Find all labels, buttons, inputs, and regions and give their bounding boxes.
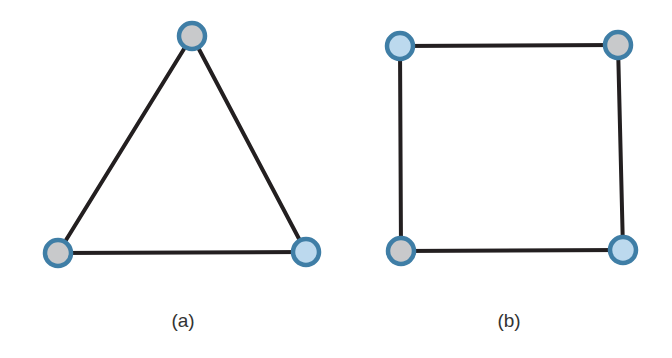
edge-a-top-to-bottom-left	[58, 36, 192, 253]
node-b-bottom-right	[610, 237, 636, 263]
graph-diagram	[0, 0, 672, 358]
node-a-top	[179, 23, 205, 49]
caption-a: (a)	[171, 310, 194, 332]
node-b-top-right	[605, 32, 631, 58]
edge-a-bottom-left-to-bottom-right	[58, 252, 306, 253]
caption-b: (b)	[497, 310, 520, 332]
nodes-layer	[45, 23, 636, 266]
edge-b-top-right-to-bottom-right	[618, 45, 623, 250]
node-a-bottom-left	[45, 240, 71, 266]
node-b-bottom-left	[388, 238, 414, 264]
edges-layer	[58, 36, 623, 253]
edge-a-top-to-bottom-right	[192, 36, 306, 252]
edge-b-top-left-to-top-right	[400, 45, 618, 46]
edge-b-bottom-left-to-top-left	[400, 46, 401, 251]
node-a-bottom-right	[293, 239, 319, 265]
node-b-top-left	[387, 33, 413, 59]
edge-b-bottom-right-to-bottom-left	[401, 250, 623, 251]
